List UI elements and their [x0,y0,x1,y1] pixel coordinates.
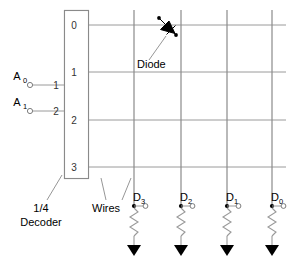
decoder-output-label-0: 0 [71,20,77,31]
decoder-label-line1: 1/4 [33,202,48,214]
output-d2-group[interactable]: D 2 [174,191,195,256]
input-a0-group[interactable]: A 0 1 [13,70,64,91]
wires-annotation-group [101,178,131,200]
input-terminal-a1[interactable] [27,108,32,113]
column-wire-group [134,10,272,206]
pulldown-resistor-d0 [268,208,276,236]
decoder-label-line2: Decoder [20,216,62,228]
decoder-output-label-1: 1 [71,67,77,78]
output-label-d3-name: D [133,191,141,203]
diode-anode-lead [159,18,165,24]
ground-symbol-d0 [265,245,279,256]
diode-symbol [149,16,178,60]
decoder-output-label-2: 2 [71,115,77,126]
input-label-a0-subscript: 0 [23,76,27,85]
input-label-a1-subscript: 1 [23,102,27,111]
output-d1-group[interactable]: D 1 [220,191,241,256]
ground-symbol-d3 [127,245,141,256]
input-a1-group[interactable]: A 1 2 [13,96,64,117]
output-d0-group[interactable]: D 0 [265,191,286,256]
pulldown-resistor-d2 [177,208,185,236]
output-label-d2-subscript: 2 [188,197,192,206]
decoder-box-outline [65,11,89,179]
input-pin-number-a0: 1 [53,80,59,91]
pulldown-resistor-d3 [130,208,138,236]
input-terminal-a0[interactable] [27,82,32,87]
row-wire-group [88,25,286,167]
ground-symbol-d1 [220,245,234,256]
input-label-a1-name: A [13,96,21,108]
output-label-d3-subscript: 3 [141,197,145,206]
output-label-d2-name: D [180,191,188,203]
diagram-canvas: 0 1 2 3 A 0 1 A 1 2 [0,0,304,261]
input-label-a0-name: A [13,70,21,82]
wires-leader-line-right [122,178,131,200]
diode-leader-line [149,36,166,60]
output-label-d1-name: D [226,191,234,203]
output-label-d1-subscript: 1 [234,197,238,206]
output-d3-group[interactable]: D 3 [127,191,148,256]
wires-annotation-label: Wires [92,202,121,214]
decoder-output-label-3: 3 [71,162,77,173]
rom-matrix-diagram: 0 1 2 3 A 0 1 A 1 2 [0,0,304,261]
pulldown-resistor-d1 [223,208,231,236]
diode-triangle [161,21,176,34]
output-label-d0-subscript: 0 [279,197,283,206]
input-pin-number-a1: 2 [53,106,59,117]
output-label-d0-name: D [271,191,279,203]
diode-annotation-label: Diode [137,58,166,70]
wires-leader-line-left [101,178,106,200]
decoder-leader-line [47,175,62,200]
ground-symbol-d2 [174,245,188,256]
